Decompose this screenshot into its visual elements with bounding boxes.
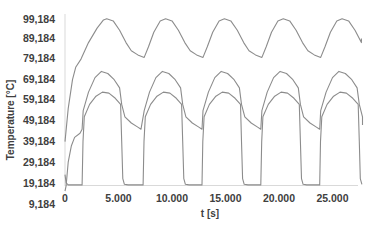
series-layer <box>65 19 363 191</box>
x-tick-label: 25.000 <box>316 192 348 204</box>
y-tick-label: 19,184 <box>23 177 55 189</box>
x-tick-label: 10.000 <box>156 192 188 204</box>
x-axis-title: t [s] <box>201 208 219 219</box>
y-axis-title: Temperature [°C] <box>5 80 16 161</box>
y-tick-label: 9,184 <box>29 198 55 210</box>
y-tick-label: 59,184 <box>23 93 55 105</box>
x-tick-label: 15.000 <box>209 192 241 204</box>
y-tick-label: 69,184 <box>23 73 55 85</box>
series-line-middle <box>65 71 363 191</box>
x-tick-label: 5.000 <box>105 192 131 204</box>
x-tick-labels: 0 5.000 10.000 15.000 20.000 25.000 <box>62 192 349 204</box>
y-tick-label: 49,184 <box>23 114 55 126</box>
y-tick-label: 79,184 <box>23 52 55 64</box>
y-tick-label: 29,184 <box>23 156 55 168</box>
y-tick-label: 89,184 <box>23 32 55 44</box>
temperature-line-chart: 99,184 89,184 79,184 69,184 59,184 49,18… <box>0 0 374 226</box>
y-tick-label: 99,184 <box>23 13 55 25</box>
x-tick-label: 0 <box>62 192 68 204</box>
series-line-lower <box>65 92 362 185</box>
y-tick-label: 39,184 <box>23 135 55 147</box>
x-tick-label: 20.000 <box>263 192 295 204</box>
y-tick-labels: 99,184 89,184 79,184 69,184 59,184 49,18… <box>23 13 55 210</box>
